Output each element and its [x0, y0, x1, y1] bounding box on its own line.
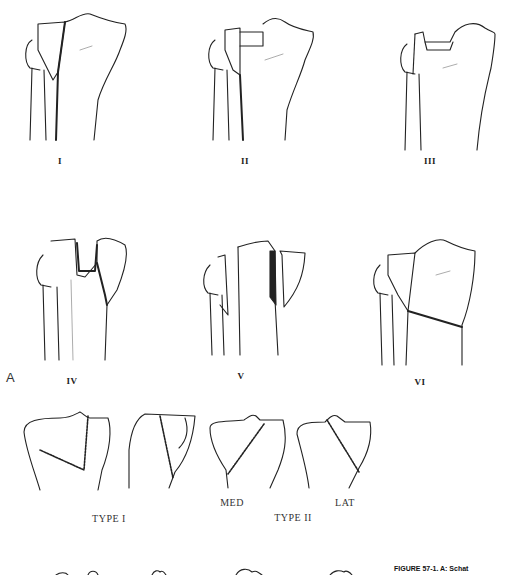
label-type-iii: III	[424, 156, 436, 166]
part-label-a: A	[6, 370, 15, 385]
tibia-illustration-iii	[395, 10, 505, 155]
tibia-illustration-ii	[205, 10, 320, 150]
label-med: MED	[220, 497, 244, 508]
fracture-diagram-type-iv	[35, 235, 145, 365]
label-type-2: TYPE II	[274, 512, 312, 523]
tibia-illustration-iv	[35, 235, 145, 365]
label-type-i: I	[58, 156, 62, 166]
tibia-illustration-i	[20, 10, 130, 150]
label-type-vi: VI	[414, 377, 425, 387]
type-1-diagram-left	[20, 410, 110, 485]
fracture-diagram-type-v	[200, 235, 315, 365]
tibia-illustration-vi	[370, 235, 485, 375]
type-2-diagram-lat	[295, 410, 375, 485]
label-type-ii: II	[241, 156, 249, 166]
plateau-outline-lat	[295, 410, 375, 485]
fracture-diagram-type-vi	[370, 235, 485, 375]
type-2-diagram-med	[208, 410, 288, 485]
plateau-outline-1	[20, 410, 110, 485]
fracture-diagram-type-i	[20, 10, 130, 150]
plateau-outline-med	[208, 410, 288, 485]
figure-caption: FIGURE 57-1. A: Schat	[394, 565, 468, 572]
type-1-diagram-right	[125, 410, 200, 485]
fracture-diagram-type-ii	[205, 10, 320, 150]
tibia-illustration-v	[200, 235, 315, 365]
cropped-outlines	[0, 550, 380, 575]
label-type-1: TYPE I	[92, 513, 126, 524]
plateau-outline-2	[125, 410, 200, 485]
label-type-v: V	[238, 371, 245, 381]
fracture-diagram-type-iii	[395, 10, 505, 155]
label-lat: LAT	[335, 497, 355, 508]
label-type-iv: IV	[66, 376, 77, 386]
